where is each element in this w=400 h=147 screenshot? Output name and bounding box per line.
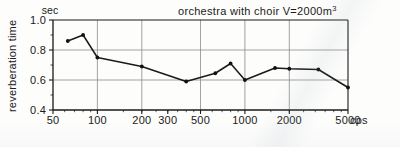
reverberation-time-chart-figure: 1.00.80.60.4 50100200300500100020005000 …	[0, 0, 400, 147]
x-tick-label: 100	[88, 114, 107, 126]
gridlines	[53, 20, 348, 110]
x-tick-label: 500	[191, 114, 210, 126]
data-point	[140, 65, 144, 69]
data-point	[273, 66, 277, 70]
data-point	[66, 39, 70, 43]
x-axis-tick-labels: 50100200300500100020005000	[47, 114, 361, 126]
y-tick-label: 0.8	[30, 44, 46, 56]
x-tick-label: 2000	[277, 114, 302, 126]
data-point	[81, 33, 85, 37]
x-tick-label: 300	[158, 114, 177, 126]
data-point	[184, 80, 188, 84]
data-point	[229, 62, 233, 66]
data-point	[346, 86, 350, 90]
chart-title-text: orchestra with choir V=2000m	[178, 5, 332, 17]
y-tick-label: 0.6	[30, 74, 46, 86]
x-tick-label: 200	[132, 114, 151, 126]
data-point	[96, 56, 100, 60]
y-axis-unit-label: sec	[42, 4, 58, 16]
x-tick-label: 1000	[232, 114, 257, 126]
y-tick-label: 0.4	[30, 104, 46, 116]
data-series-layer	[66, 33, 350, 89]
axis-ticks	[49, 20, 348, 114]
x-axis-unit-label: cps	[350, 114, 368, 126]
chart-canvas: 1.00.80.60.4 50100200300500100020005000 …	[0, 0, 400, 147]
data-point	[243, 78, 247, 82]
y-axis-tick-labels: 1.00.80.60.4	[30, 14, 46, 116]
x-tick-label: 50	[47, 114, 60, 126]
data-point	[213, 71, 217, 75]
data-point	[317, 68, 321, 72]
chart-title-superscript: 3	[332, 4, 336, 13]
data-point	[287, 67, 291, 71]
chart-title: orchestra with choir V=2000m3	[178, 4, 337, 17]
series-markers	[66, 33, 350, 89]
y-axis-title: reverberation time	[6, 20, 18, 112]
